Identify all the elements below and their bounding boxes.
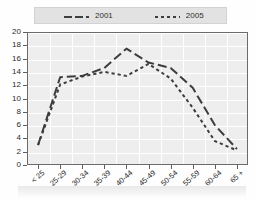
y-axis-tick-label: 6 xyxy=(17,121,21,129)
y-axis-tick-label: 8 xyxy=(17,108,21,116)
y-axis-tick-label: 14 xyxy=(12,68,21,76)
y-axis-tick-label: 2 xyxy=(17,148,21,156)
y-axis: 20181614121086420 xyxy=(0,32,24,165)
x-axis-tick-label: 25-29 xyxy=(49,169,68,187)
x-axis-tick-label: 60-64 xyxy=(204,169,223,187)
legend-label-2005: 2005 xyxy=(186,12,204,20)
x-axis-tick-label: 55-59 xyxy=(181,169,200,187)
y-axis-tick-label: 12 xyxy=(12,81,21,89)
x-axis-tick-label: 65 + xyxy=(229,169,245,184)
x-axis-tick-label: 35-39 xyxy=(93,169,112,187)
scan-artifact xyxy=(18,186,246,198)
x-axis-tick-label: 45-49 xyxy=(137,169,156,187)
chart-container: 2001 2005 20181614121086420 < 2525-2930-… xyxy=(0,0,256,201)
y-axis-tick-mark xyxy=(23,165,27,166)
legend-label-2001: 2001 xyxy=(95,12,113,20)
y-axis-tick-label: 10 xyxy=(12,95,21,103)
y-axis-tick-label: 20 xyxy=(12,28,21,36)
x-axis-tick-label: 50-54 xyxy=(159,169,178,187)
y-axis-tick-label: 16 xyxy=(12,55,21,63)
x-axis-tick-label: < 25 xyxy=(30,169,46,184)
legend-item-2005: 2005 xyxy=(155,8,204,23)
y-axis-tick-label: 18 xyxy=(12,41,21,49)
x-axis-tick-label: 40-44 xyxy=(115,169,134,187)
chart-legend: 2001 2005 xyxy=(34,7,227,24)
series-lines xyxy=(27,32,248,165)
legend-item-2001: 2001 xyxy=(64,8,113,23)
chart-title xyxy=(0,0,256,2)
series-line-2001 xyxy=(38,49,237,149)
y-axis-tick-label: 4 xyxy=(17,134,21,142)
x-axis-tick-label: 30-34 xyxy=(71,169,90,187)
